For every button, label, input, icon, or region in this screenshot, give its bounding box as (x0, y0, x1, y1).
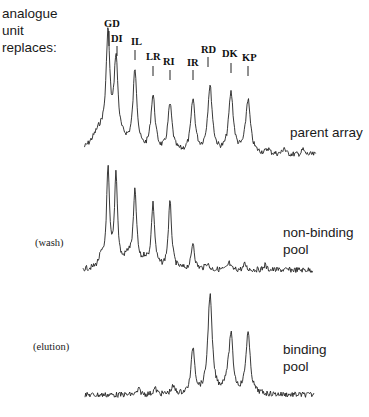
peak-label-kp: KP (242, 52, 257, 63)
trace-parent-array (84, 28, 316, 157)
peak-label-lr: LR (146, 51, 161, 62)
peak-labels: GDDIILLRRIIRRDDKKP (104, 18, 257, 68)
peak-label-di: DI (111, 33, 123, 44)
trace-non-binding-pool (83, 165, 313, 272)
peak-label-il: IL (131, 36, 142, 47)
side-label-elution: (elution) (33, 341, 69, 352)
peak-label-ir: IR (187, 57, 199, 68)
side-label-wash: (wash) (35, 237, 64, 248)
peak-label-ri: RI (163, 56, 175, 67)
pool-label-parent-array: parent array (290, 124, 363, 141)
peak-label-dk: DK (222, 48, 239, 59)
peak-label-rd: RD (201, 44, 217, 55)
peak-label-gd: GD (104, 18, 120, 29)
trace-binding-pool (85, 294, 314, 398)
pool-label-non-binding: non-binding pool (283, 224, 354, 258)
pool-label-binding: binding pool (283, 341, 327, 375)
